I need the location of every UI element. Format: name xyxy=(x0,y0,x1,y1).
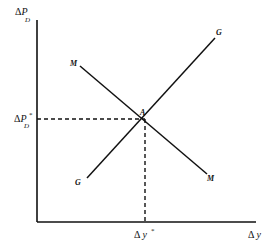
equilibrium-y-value-label: ΔP * D xyxy=(14,111,33,130)
y-axis-label: ΔP D xyxy=(15,6,30,24)
svg-text:*: * xyxy=(151,227,155,235)
x-axis-label: Δy xyxy=(248,229,261,240)
svg-text:D: D xyxy=(23,122,29,130)
svg-text:Δy: Δy xyxy=(248,229,261,240)
m-curve xyxy=(80,66,207,174)
svg-text:Δy: Δy xyxy=(134,229,147,240)
equilibrium-diagram: M M G G A ΔP D ΔP * D Δy * Δy xyxy=(0,0,276,250)
g-curve-label-bottom: G xyxy=(75,178,81,187)
g-curve-label-top: G xyxy=(216,28,222,37)
m-curve-label-bottom: M xyxy=(206,174,215,183)
svg-text:D: D xyxy=(24,16,30,24)
svg-text:*: * xyxy=(29,111,33,119)
g-curve xyxy=(87,38,215,178)
m-curve-label-top: M xyxy=(69,59,78,68)
equilibrium-x-value-label: Δy * xyxy=(134,227,155,240)
equilibrium-point-label: A xyxy=(139,108,146,117)
